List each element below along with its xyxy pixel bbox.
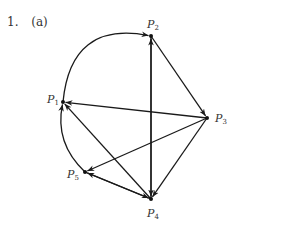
node-p1-dot	[61, 100, 65, 104]
node-p3-dot	[205, 116, 209, 120]
edges	[61, 33, 207, 199]
directed-graph: P1P2P3P4P5	[0, 0, 295, 230]
node-p1-label: P1	[46, 93, 59, 107]
edge-p4-p5	[87, 173, 151, 199]
node-p3-label: P3	[214, 112, 227, 126]
edge-p4-p1	[65, 104, 151, 199]
edge-p3-p1	[65, 102, 207, 118]
node-p5-label: P5	[66, 168, 79, 182]
edge-p2-p3	[151, 36, 206, 116]
node-p4-label: P4	[146, 207, 159, 221]
edge-p5-p1	[61, 104, 85, 172]
node-p2-dot	[149, 34, 153, 38]
node-p5-dot	[83, 170, 87, 174]
node-p2-label: P2	[146, 18, 159, 32]
node-p4-dot	[149, 197, 153, 201]
edge-p1-p2	[63, 33, 149, 102]
nodes: P1P2P3P4P5	[46, 18, 227, 221]
